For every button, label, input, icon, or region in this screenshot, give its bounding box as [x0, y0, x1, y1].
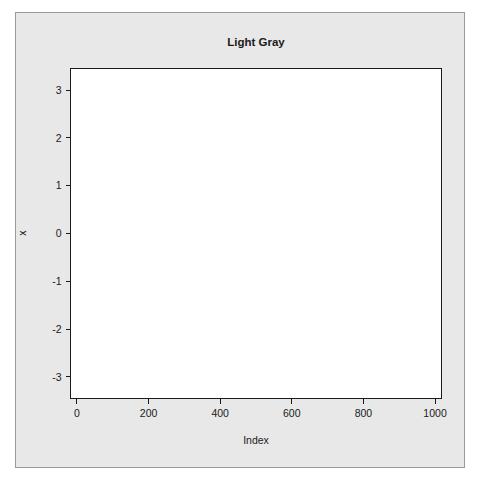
y-axis-tick-label: 1	[56, 179, 62, 191]
x-axis-tick-label: 1000	[423, 407, 447, 419]
x-axis-tick-label: 600	[283, 407, 301, 419]
y-axis-tick-label: -1	[52, 275, 61, 287]
x-axis: 02004006008001000	[74, 399, 447, 419]
x-axis-tick-label: 800	[355, 407, 373, 419]
x-axis-tick-label: 200	[140, 407, 158, 419]
y-axis-tick-label: 3	[56, 84, 62, 96]
y-axis: -3-2-10123	[52, 84, 70, 383]
y-axis-tick-label: 0	[56, 227, 62, 239]
plot-device-canvas: -3-2-10123 02004006008001000 Light Gray …	[0, 0, 480, 482]
x-axis-tick-label: 400	[211, 407, 229, 419]
y-axis-tick-label: 2	[56, 132, 62, 144]
y-axis-label: x	[16, 230, 28, 236]
y-axis-tick-label: -3	[52, 371, 61, 383]
page-title: Light Gray	[227, 36, 285, 48]
y-axis-tick-label: -2	[52, 323, 61, 335]
x-axis-label: Index	[243, 434, 269, 446]
x-axis-tick-label: 0	[74, 407, 80, 419]
scatter-plot-svg: -3-2-10123 02004006008001000 Light Gray …	[0, 0, 480, 482]
plot-region-outline	[71, 69, 442, 399]
